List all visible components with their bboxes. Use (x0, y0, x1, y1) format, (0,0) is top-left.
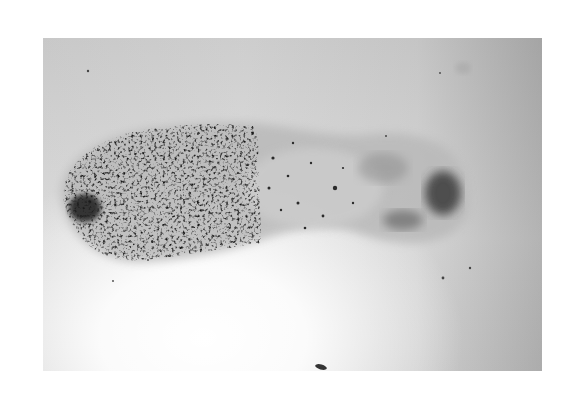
micrograph-photo (43, 38, 542, 371)
specimen (43, 38, 542, 371)
